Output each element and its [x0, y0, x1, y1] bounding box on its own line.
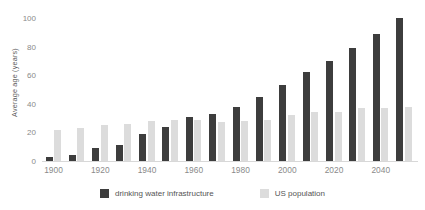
bar-population[interactable]	[194, 120, 201, 161]
bar-population[interactable]	[358, 108, 365, 161]
legend-label-population: US population	[275, 189, 325, 198]
bar-population[interactable]	[171, 120, 178, 161]
bar-population[interactable]	[148, 121, 155, 161]
x-axis-baseline	[42, 161, 418, 162]
bar-infrastructure[interactable]	[209, 114, 216, 161]
bar-group	[279, 18, 302, 161]
bar-group	[186, 18, 209, 161]
bar-group	[233, 18, 256, 161]
bar-group	[162, 18, 185, 161]
bar-infrastructure[interactable]	[349, 48, 356, 161]
x-tick-label: 2000	[278, 165, 297, 175]
bar-infrastructure[interactable]	[303, 72, 310, 161]
y-tick-label: 0	[32, 157, 36, 166]
legend-swatch-population	[260, 189, 269, 198]
y-tick-label: 80	[27, 42, 36, 51]
bar-group	[209, 18, 232, 161]
bar-population[interactable]	[101, 125, 108, 161]
bar-group	[46, 18, 69, 161]
bar-infrastructure[interactable]	[326, 61, 333, 161]
legend-item-infrastructure[interactable]: drinking water infrastructure	[100, 189, 214, 198]
bar-group	[139, 18, 162, 161]
bar-population[interactable]	[218, 122, 225, 161]
bar-infrastructure[interactable]	[162, 127, 169, 161]
y-tick-label: 20	[27, 128, 36, 137]
plot-area: 020406080100	[42, 18, 416, 161]
bar-population[interactable]	[381, 108, 388, 161]
x-tick-label: 2020	[325, 165, 344, 175]
legend-swatch-infrastructure	[100, 189, 109, 198]
bar-population[interactable]	[405, 107, 412, 161]
bar-group	[69, 18, 92, 161]
bar-infrastructure[interactable]	[233, 107, 240, 161]
bar-group	[92, 18, 115, 161]
bar-chart: Average age (years) 020406080100 1900192…	[0, 0, 425, 210]
bar-population[interactable]	[288, 115, 295, 161]
bar-population[interactable]	[264, 120, 271, 161]
legend-label-infrastructure: drinking water infrastructure	[115, 189, 214, 198]
bar-group	[326, 18, 349, 161]
chart-legend: drinking water infrastructure US populat…	[0, 189, 425, 198]
x-tick-label: 1920	[91, 165, 110, 175]
bar-group	[116, 18, 139, 161]
x-tick-label: 1900	[44, 165, 63, 175]
bar-group	[373, 18, 396, 161]
bar-infrastructure[interactable]	[373, 34, 380, 161]
x-tick-label: 1940	[138, 165, 157, 175]
bar-infrastructure[interactable]	[186, 117, 193, 161]
bar-infrastructure[interactable]	[92, 148, 99, 161]
bar-group	[349, 18, 372, 161]
legend-item-population[interactable]: US population	[260, 189, 325, 198]
bar-population[interactable]	[54, 130, 61, 161]
bar-infrastructure[interactable]	[396, 18, 403, 161]
bar-group	[303, 18, 326, 161]
bar-population[interactable]	[311, 112, 318, 161]
y-tick-label: 100	[23, 14, 36, 23]
bar-population[interactable]	[335, 112, 342, 161]
y-axis-title: Average age (years)	[10, 28, 19, 138]
bar-population[interactable]	[124, 124, 131, 161]
y-tick-label: 60	[27, 71, 36, 80]
bar-group	[396, 18, 419, 161]
bar-infrastructure[interactable]	[139, 134, 146, 161]
bar-infrastructure[interactable]	[116, 145, 123, 161]
bar-infrastructure[interactable]	[279, 85, 286, 161]
bar-population[interactable]	[241, 121, 248, 161]
x-tick-label: 1960	[184, 165, 203, 175]
y-tick-label: 40	[27, 99, 36, 108]
x-tick-label: 2040	[371, 165, 390, 175]
bar-population[interactable]	[77, 128, 84, 161]
bar-infrastructure[interactable]	[256, 97, 263, 161]
x-tick-label: 1980	[231, 165, 250, 175]
bar-group	[256, 18, 279, 161]
